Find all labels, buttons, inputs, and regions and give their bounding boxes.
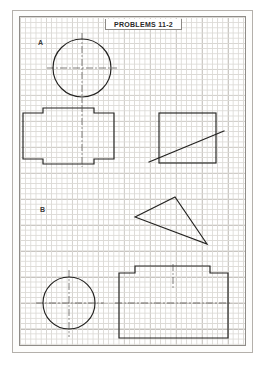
grid-drawing-area: PROBLEMS 11-2 A B [19, 16, 246, 346]
figures-layer [20, 17, 246, 346]
stepped-block-top-outline [23, 108, 114, 164]
sheet-title: PROBLEMS 11-2 [114, 21, 173, 28]
drawing-sheet: PROBLEMS 11-2 A B [0, 0, 265, 367]
stepped-block-bottom-outline [119, 266, 228, 338]
figure-stepped-block-top [23, 105, 114, 167]
figure-triangle [135, 197, 207, 244]
section-label-a: A [38, 39, 43, 46]
figure-circle-top [47, 33, 117, 103]
title-plate: PROBLEMS 11-2 [105, 19, 182, 30]
figure-square-with-diagonal [149, 113, 224, 163]
figure-stepped-block-bottom [115, 264, 232, 338]
diagonal-line [149, 131, 224, 162]
figure-circle-bottom [36, 270, 104, 337]
section-label-b: B [40, 206, 45, 213]
triangle-outline [135, 197, 207, 244]
